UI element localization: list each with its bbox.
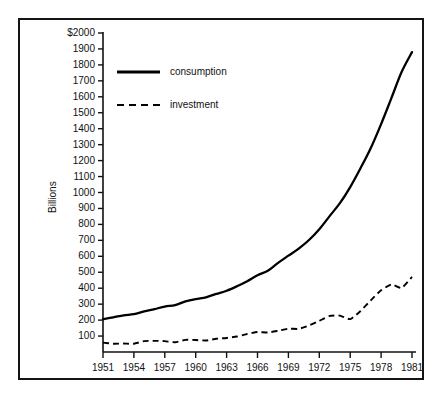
y-tick-label: 1000 bbox=[73, 188, 95, 198]
y-tick-label: 100 bbox=[78, 331, 95, 341]
y-tick-label: 1500 bbox=[73, 108, 95, 118]
y-tick-label: 1700 bbox=[73, 76, 95, 86]
axes-lines bbox=[103, 32, 416, 352]
y-tick-label: 1800 bbox=[73, 60, 95, 70]
y-tick-label: 400 bbox=[78, 283, 95, 293]
y-tick-label: 700 bbox=[78, 235, 95, 245]
legend-label-investment: investment bbox=[170, 100, 218, 110]
y-tick-label: 1600 bbox=[73, 92, 95, 102]
y-tick-label: 600 bbox=[78, 251, 95, 261]
y-tick-label: 900 bbox=[78, 203, 95, 213]
chart-figure: Billions $200019001800170016001500140013… bbox=[0, 0, 444, 397]
y-tick-label: 500 bbox=[78, 267, 95, 277]
y-tick-label: 800 bbox=[78, 219, 95, 229]
legend-label-consumption: consumption bbox=[170, 67, 227, 77]
y-tick-label: 300 bbox=[78, 299, 95, 309]
series-line-consumption bbox=[103, 52, 412, 319]
y-tick-label: 1300 bbox=[73, 140, 95, 150]
y-tick-label: 1100 bbox=[73, 172, 95, 182]
y-tick-label: $2000 bbox=[67, 28, 95, 38]
y-tick-label: 200 bbox=[78, 315, 95, 325]
x-tick-marks bbox=[103, 352, 412, 358]
data-series-lines bbox=[103, 52, 412, 344]
legend-swatches bbox=[117, 72, 160, 105]
y-tick-label: 1200 bbox=[73, 156, 95, 166]
plot-area bbox=[0, 0, 444, 397]
x-tick-label: 1981 bbox=[392, 363, 432, 373]
y-tick-label: 1400 bbox=[73, 124, 95, 134]
y-tick-label: 1900 bbox=[73, 44, 95, 54]
